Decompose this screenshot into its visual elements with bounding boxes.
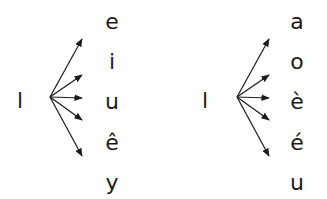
- arrow-icon: [237, 39, 269, 97]
- arrow-icon: [50, 39, 82, 97]
- arrow-icon: [237, 75, 269, 97]
- arrow-icon: [237, 97, 269, 98]
- arrow-fan-right: [237, 39, 269, 156]
- arrow-icon: [237, 97, 269, 120]
- arrow-icon: [237, 97, 269, 156]
- arrow-fans: [0, 0, 327, 199]
- arrow-fan-left: [50, 39, 82, 156]
- arrow-icon: [50, 75, 82, 97]
- arrow-icon: [50, 97, 82, 156]
- arrow-icon: [50, 97, 82, 120]
- arrow-icon: [50, 97, 82, 98]
